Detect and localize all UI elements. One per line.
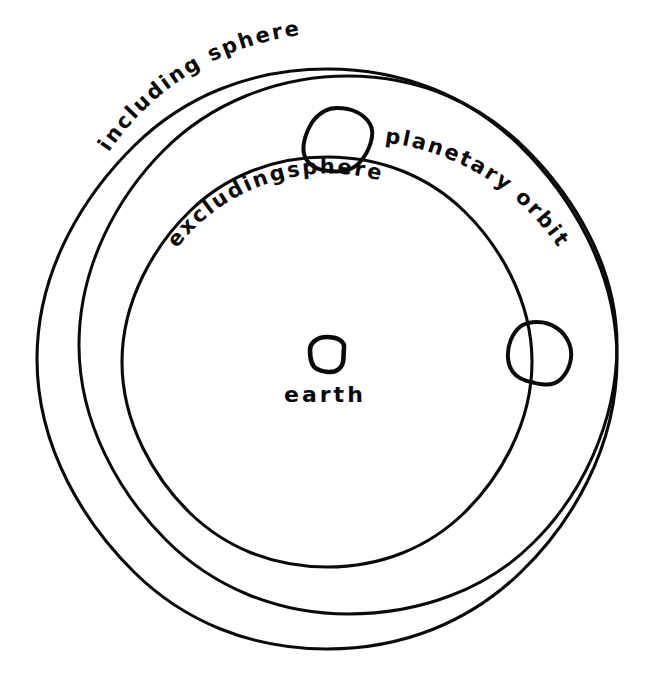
label-excluding-sphere: excludingsphere [162,155,386,252]
label-earth: earth [284,382,366,407]
label-planetary-orbit: planetary orbit [384,124,575,253]
epicycle-right [508,322,571,385]
diagram-canvas: including sphere excludingsphere planeta… [0,0,653,679]
earth-body [310,337,344,372]
label-planetary-orbit-text: planetary orbit [384,124,575,253]
astronomical-diagram: including sphere excludingsphere planeta… [0,0,653,679]
label-excluding-sphere-text: excludingsphere [162,155,386,252]
